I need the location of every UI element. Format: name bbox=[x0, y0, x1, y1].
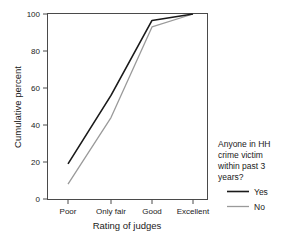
y-tick-label-80: 80 bbox=[31, 47, 40, 56]
x-tick-label-good: Good bbox=[142, 207, 162, 216]
y-tick-label-40: 40 bbox=[31, 121, 40, 130]
plot-frame bbox=[48, 14, 208, 200]
chart-figure: 100 80 60 40 20 0 Cumulative percent Poo… bbox=[0, 0, 285, 248]
legend-label-no: No bbox=[254, 202, 265, 212]
y-tick-label-100: 100 bbox=[27, 10, 41, 19]
x-axis-title: Rating of judges bbox=[93, 220, 162, 231]
legend-title-line-4: years? bbox=[218, 172, 244, 182]
y-tick-label-0: 0 bbox=[36, 195, 41, 204]
legend-title-line-2: crime victim bbox=[218, 150, 263, 160]
x-tick-label-only-fair: Only fair bbox=[96, 207, 126, 216]
y-axis-title: Cumulative percent bbox=[12, 66, 23, 148]
y-axis-ticks bbox=[43, 14, 48, 199]
y-tick-label-20: 20 bbox=[31, 158, 40, 167]
x-tick-label-excellent: Excellent bbox=[177, 207, 210, 216]
chart-svg: 100 80 60 40 20 0 Cumulative percent Poo… bbox=[0, 0, 285, 248]
legend-label-yes: Yes bbox=[254, 187, 268, 197]
legend-title-line-1: Anyone in HH bbox=[218, 139, 270, 149]
x-tick-label-poor: Poor bbox=[60, 207, 77, 216]
legend-title-line-3: within past 3 bbox=[217, 161, 266, 171]
y-tick-label-60: 60 bbox=[31, 84, 40, 93]
legend: Anyone in HH crime victim within past 3 … bbox=[217, 139, 270, 212]
x-axis-ticks bbox=[68, 200, 193, 205]
